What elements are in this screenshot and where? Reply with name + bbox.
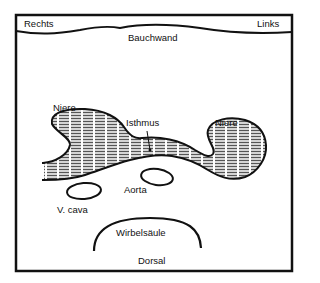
label-dorsal: Dorsal — [138, 256, 165, 266]
label-abdominal-wall: Bauchwand — [128, 33, 178, 43]
label-kidney-right: Niere — [53, 103, 76, 113]
label-left: Links — [257, 19, 279, 29]
label-isthmus: Isthmus — [126, 118, 159, 128]
label-vena-cava: V. cava — [57, 205, 88, 215]
isthmus-dot — [149, 149, 152, 152]
label-spine: Wirbelsäule — [116, 228, 166, 238]
label-kidney-left: Niere — [215, 118, 238, 128]
kidney-open-edge-mask — [40, 164, 44, 179]
vena-cava-shape — [66, 182, 101, 201]
label-right: Rechts — [24, 19, 54, 29]
label-aorta: Aorta — [124, 185, 147, 195]
